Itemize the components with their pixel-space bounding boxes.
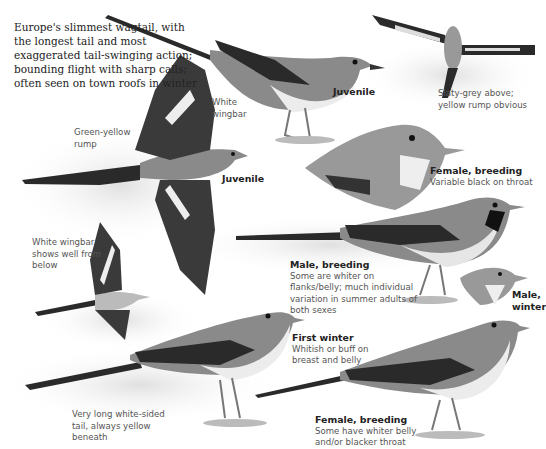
label-female-breeding-bottom: Female, breeding Some have whiter belly … (315, 414, 425, 449)
label-male-winter: Male, winter (512, 289, 546, 313)
label-first-winter-title: First winter (292, 332, 382, 344)
label-female-breeding-head-text: Variable black on throat (430, 177, 533, 187)
label-white-wingbar: White wingbar (212, 97, 257, 120)
label-first-winter: First winter Whitish or buff on breast a… (292, 332, 382, 367)
label-juvenile-top: Juvenile (333, 86, 375, 98)
label-juvenile-flight: Juvenile (222, 173, 264, 185)
label-female-breeding-head: Female, breeding Variable black on throa… (430, 165, 545, 188)
label-male-breeding-text: Some are whiter on flanks/belly; much in… (290, 271, 417, 316)
label-female-breeding-bottom-title: Female, breeding (315, 414, 425, 426)
label-green-yellow-rump: Green-yellow rump (74, 127, 134, 150)
label-male-breeding: Male, breeding Some are whiter on flanks… (290, 259, 420, 317)
label-tail-note: Very long white-sided tail, always yello… (72, 409, 182, 444)
label-female-breeding-head-title: Female, breeding (430, 165, 545, 177)
label-first-winter-text: Whitish or buff on breast and belly (292, 344, 369, 366)
label-white-wingbar-below: White wingbar shows well from below (32, 237, 104, 272)
label-flight-top: Slaty-grey above; yellow rump obvious (438, 88, 543, 111)
label-female-breeding-bottom-text: Some have whiter belly and/or blacker th… (315, 426, 416, 448)
label-male-breeding-title: Male, breeding (290, 259, 420, 271)
intro-description: Europe's slimmest wagtail, with the long… (14, 20, 204, 90)
